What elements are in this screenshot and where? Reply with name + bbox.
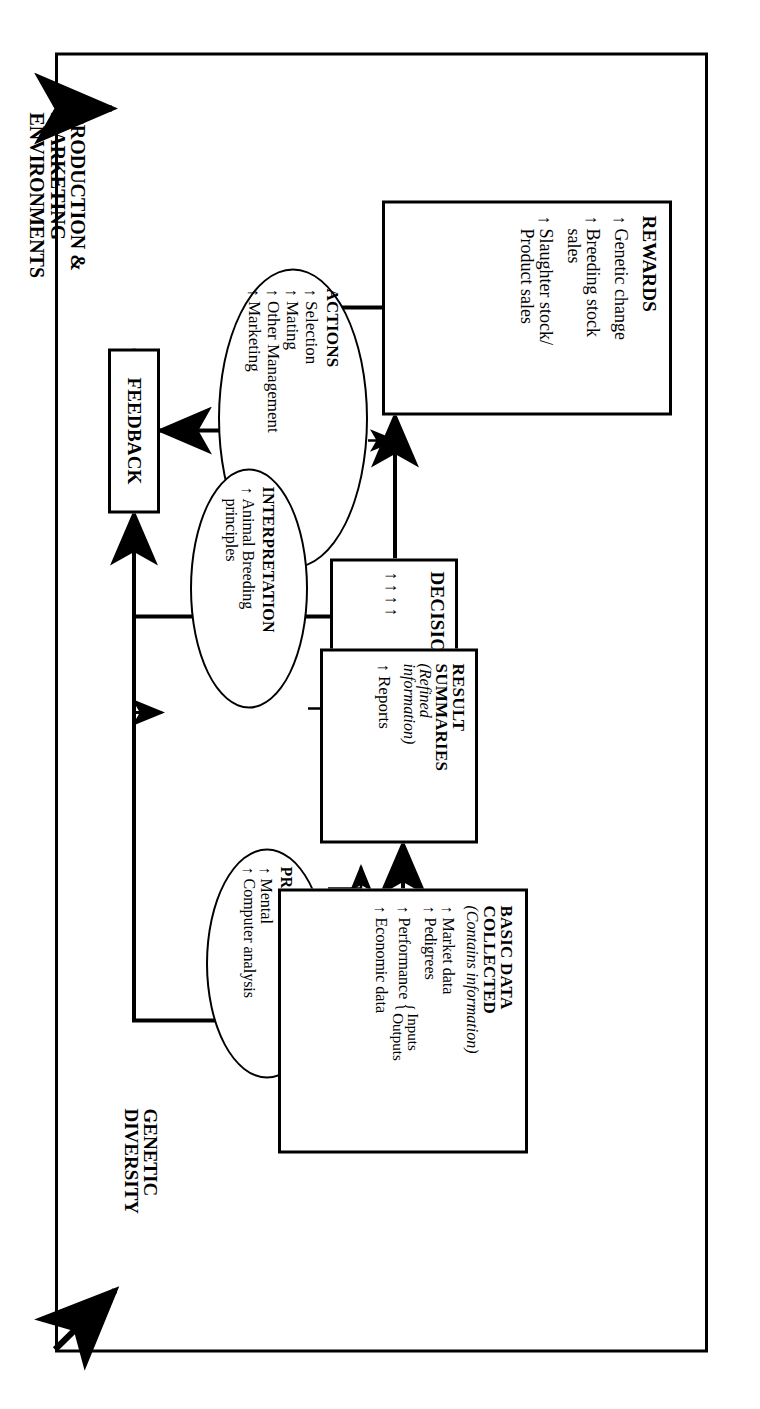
node-interpretation-bullets: ↑ Animal Breeding principles	[222, 486, 256, 690]
node-result-summaries[interactable]: RESULT SUMMARIES (Refined information) ↑…	[320, 648, 478, 843]
node-processing-bullets: ↑ Mental ↑ Computer analysis	[240, 866, 274, 1060]
up-arrow-icon: ↑	[394, 905, 411, 913]
bullet-row: ↑ Computer analysis	[240, 866, 257, 998]
bullet-row: ↑ Pedigrees	[421, 905, 438, 979]
wire-processing-to-chain	[328, 866, 361, 888]
up-arrow-icon: ↑	[245, 288, 263, 297]
up-arrow-icon: ↑	[282, 288, 300, 297]
node-feedback[interactable]: FEEDBACK	[108, 348, 160, 513]
up-arrow-icon: ↑	[374, 663, 392, 672]
brace-item-outputs: Outputs	[390, 1013, 405, 1061]
bullet-row: ↑ Other Management	[265, 288, 283, 432]
node-rewards-bullets: ↑ Genetic change ↑ Breeding stock sales …	[508, 215, 629, 400]
bullet-label: Slaughter stock/ Product sales	[517, 228, 555, 344]
brace-icon: {	[396, 1002, 414, 1010]
bullet-label: Computer analysis	[240, 878, 257, 998]
label-genetic-diversity: GENETIC DIVERSITY	[121, 1108, 160, 1214]
bullet-row: ↑ Performance { Inputs Outputs	[390, 905, 420, 1060]
bullet-row: ↑ Mating	[283, 288, 301, 350]
bullet-row: ↑ Slaughter stock/ Product sales	[517, 215, 555, 344]
brace-item-inputs: Inputs	[405, 1013, 420, 1061]
up-arrow-icon: ↑	[256, 866, 273, 874]
node-result-summaries-title: RESULT SUMMARIES	[433, 663, 467, 828]
node-basic-data-subtitle: (Contains information)	[464, 905, 480, 1136]
up-arrow-icon: ↑	[238, 486, 255, 494]
bullet-label: Mental	[257, 878, 274, 923]
bullet-row: ↑ Market data	[439, 905, 456, 994]
node-feedback-title: FEEDBACK	[124, 377, 143, 484]
bullet-label: Other Management	[265, 301, 283, 433]
bullet-row: ↑ Selection	[302, 288, 320, 364]
bullet-row: ↑ Reports	[375, 663, 393, 728]
bullet-row: ↑ Breeding stock sales	[564, 215, 602, 336]
bullet-label: Breeding stock sales	[564, 228, 602, 336]
bullet-label: Economic data	[373, 917, 390, 1013]
bullet-row: ↑ Economic data	[373, 905, 390, 1013]
up-arrow-icon: ↑	[372, 905, 389, 913]
up-arrow-icon: ↑	[610, 215, 629, 224]
up-arrow-icon: ↑	[239, 866, 256, 874]
bullet-row: ↑ Genetic change	[611, 215, 630, 339]
node-rewards-title: REWARDS	[640, 215, 659, 400]
up-arrow-icon: ↑	[301, 288, 319, 297]
up-arrow-icon: ↑	[438, 905, 455, 913]
node-result-summaries-subtitle: (Refined information)	[401, 663, 433, 828]
bullet-label: Reports	[375, 676, 393, 729]
bullet-label: Performance	[395, 917, 412, 999]
bullet-row: ↑ Animal Breeding principles	[222, 486, 256, 609]
node-rewards[interactable]: REWARDS ↑ Genetic change ↑ Breeding stoc…	[382, 200, 672, 415]
brace-items: Inputs Outputs	[390, 1013, 420, 1061]
bullet-row: ↑ Mental	[257, 866, 274, 923]
node-interpretation[interactable]: INTERPRETATION ↑ Animal Breeding princip…	[190, 468, 308, 708]
node-result-summaries-bullets: ↑ Reports	[375, 663, 393, 828]
label-production-marketing-environments: PRODUCTION & MARKETING ENVIRONMENTS	[27, 112, 88, 278]
bullet-label: Genetic change	[611, 228, 630, 339]
diagram-canvas: REWARDS ↑ Genetic change ↑ Breeding stoc…	[0, 0, 760, 1409]
up-arrow-icon: ↑	[582, 215, 601, 224]
up-arrow-icon: ↑	[535, 215, 554, 224]
up-arrow-icon: ↑	[264, 288, 282, 297]
bullet-label: Mating	[283, 301, 301, 350]
node-basic-data-bullets: ↑ Market data ↑ Pedigrees ↑ Performance …	[372, 905, 456, 1136]
bullet-row: ↑ Marketing	[246, 288, 264, 371]
bullet-label: Pedigrees	[421, 917, 438, 979]
node-actions-title: ACTIONS	[324, 288, 341, 548]
bullet-label: Market data	[439, 917, 456, 994]
node-interpretation-title: INTERPRETATION	[260, 486, 276, 690]
bullet-label: Selection	[302, 301, 320, 364]
bullet-label: Marketing	[246, 301, 264, 372]
bullet-label: Animal Breeding principles	[222, 498, 256, 609]
node-basic-data-collected[interactable]: BASIC DATA COLLECTED (Contains informati…	[278, 888, 528, 1153]
brace-group: { Inputs Outputs	[390, 1001, 420, 1061]
up-arrow-icon: ↑	[420, 905, 437, 913]
node-basic-data-title: BASIC DATA COLLECTED	[480, 905, 515, 1136]
wire-genetic-diversity	[55, 1290, 115, 1349]
